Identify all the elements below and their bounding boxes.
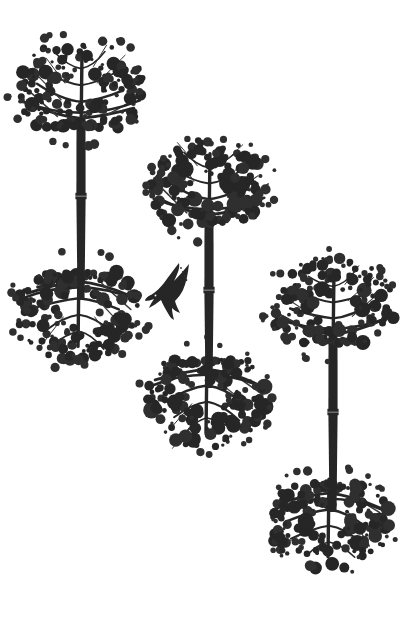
tree-3-roots-dot <box>357 555 361 559</box>
tree-3-roots-dot <box>381 501 396 516</box>
tree-1-roots-dot <box>36 285 40 289</box>
tree-2-roots-dot <box>155 387 161 393</box>
tree-3-canopy-dot <box>380 282 385 287</box>
tree-3-canopy-dot <box>374 329 381 336</box>
tree-1-canopy-dot <box>42 122 52 132</box>
tree-3-roots-dot <box>298 513 314 529</box>
tree-1-canopy-dot <box>27 89 32 94</box>
tree-2-roots-dot <box>229 435 232 438</box>
tree-3-roots-dot <box>344 520 349 525</box>
tree-1-canopy-dot <box>112 81 118 87</box>
tree-2-canopy-dot <box>209 171 214 176</box>
tree-2-roots-dot <box>143 395 152 404</box>
tree-3-canopy-dot <box>341 264 346 269</box>
tree-2-roots-dot <box>223 403 227 407</box>
tree-3-canopy-dot <box>348 286 353 291</box>
tree-3-roots-dot <box>298 538 305 545</box>
tree-1-roots-dot <box>134 320 140 326</box>
tree-3-canopy-stray-dot <box>326 246 332 252</box>
tree-2-roots-dot <box>182 360 190 368</box>
tree-1-canopy-dot <box>70 118 74 122</box>
tree-2-canopy-stray-dot <box>220 136 227 143</box>
tree-1-canopy-dot <box>125 99 129 103</box>
tree-2-canopy-dot <box>187 149 197 159</box>
tree-1-trunk-joint-seam <box>75 196 86 197</box>
artwork-canvas: Three Stylized Trees with Dove Three sty… <box>0 0 417 623</box>
tree-1-canopy-dot <box>61 66 65 70</box>
tree-1-canopy-dot <box>16 65 30 79</box>
tree-2-canopy-dot <box>245 200 253 208</box>
tree-3-roots-dot <box>365 533 368 536</box>
tree-3-canopy-dot <box>363 339 367 343</box>
tree-1-canopy-dot <box>130 79 133 82</box>
tree-3-canopy-dot <box>317 259 329 271</box>
tree-3-canopy-dot <box>313 256 318 261</box>
tree-1-canopy-dot <box>83 114 88 119</box>
tree-3-roots-dot <box>278 489 287 498</box>
tree-3-roots-dot <box>292 538 300 546</box>
tree-1-roots-dot <box>121 280 127 286</box>
tree-3-canopy-dot <box>281 294 292 305</box>
tree-3-canopy-dot <box>308 310 311 313</box>
tree-3-roots-dot <box>298 545 304 551</box>
tree-1-roots-dot <box>23 306 31 314</box>
tree-2-canopy-stray-dot <box>193 237 202 246</box>
tree-1-roots-dot <box>37 274 41 278</box>
tree-3-canopy-dot <box>368 316 376 324</box>
tree-1-roots-stray-dot <box>7 288 16 297</box>
tree-2-roots-dot <box>231 367 243 379</box>
tree-2-roots-stray-dot <box>196 448 204 456</box>
tree-1-roots-dot <box>28 297 34 303</box>
tree-1-roots-stray-dot <box>10 283 15 288</box>
tree-3-roots-dot <box>274 532 285 543</box>
tree-3-canopy-dot <box>347 332 357 342</box>
tree-3-roots-dot <box>308 530 319 541</box>
tree-1-canopy-dot <box>140 75 146 81</box>
tree-3-roots-dot <box>304 550 311 557</box>
tree-3-canopy-leader <box>333 272 334 348</box>
tree-2-canopy-dot <box>166 162 171 167</box>
tree-1-canopy-dot <box>37 108 40 111</box>
tree-3-roots-dot <box>283 522 287 526</box>
tree-2-canopy-dot <box>224 212 230 218</box>
tree-3-canopy-stray-dot <box>270 271 276 277</box>
tree-2-canopy-dot <box>200 212 205 217</box>
tree-1-roots-stray-dot <box>142 326 150 334</box>
tree-1-canopy-dot <box>65 109 72 116</box>
tree-1-roots-stray-dot <box>135 332 142 339</box>
tree-2-trunk-joint-seam <box>203 290 214 291</box>
tree-3-canopy-dot <box>305 277 313 285</box>
tree-1-canopy-dot <box>101 107 108 114</box>
tree-1-roots-dot <box>69 324 77 332</box>
tree-3-canopy-dot <box>299 298 305 304</box>
tree-1-roots-dot <box>47 315 52 320</box>
tree-1-roots-dot <box>135 303 140 308</box>
tree-3-roots-dot <box>350 482 363 495</box>
tree-3-canopy-dot <box>361 270 367 276</box>
tree-2-roots-dot <box>235 390 239 394</box>
tree-2-trunk-lower-segment <box>204 293 213 388</box>
tree-2-roots-dot <box>251 396 257 402</box>
tree-1-canopy-dot <box>89 102 100 113</box>
tree-3-roots-dot <box>337 531 345 539</box>
tree-1-roots-dot <box>62 271 75 284</box>
tree-1-roots-dot <box>36 299 43 306</box>
tree-3-canopy-dot <box>334 253 345 264</box>
tree-3-canopy-dot <box>270 305 274 309</box>
tree-3-canopy-dot <box>329 338 333 342</box>
tree-2-canopy-stray-dot <box>262 159 267 164</box>
tree-2-canopy-dot <box>248 212 255 219</box>
tree-3-roots-dot <box>298 491 306 499</box>
tree-3-roots-dot <box>351 493 360 502</box>
tree-2-canopy-dot <box>179 222 183 226</box>
tree-3-canopy-dot <box>293 320 300 327</box>
tree-3-roots-dot <box>315 551 319 555</box>
tree-2-canopy-dot <box>236 208 241 213</box>
tree-1-roots-dot <box>112 350 117 355</box>
tree-3-canopy-dot <box>283 336 289 342</box>
tree-2-roots-stray-dot <box>246 437 252 443</box>
tree-2-roots-stray-dot <box>263 420 271 428</box>
tree-1-roots-dot <box>29 321 35 327</box>
tree-2-roots-dot <box>239 407 245 413</box>
tree-2-roots-dot <box>251 409 261 419</box>
